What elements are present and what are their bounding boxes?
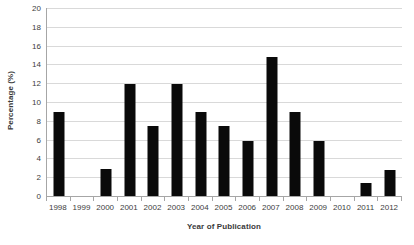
x-tick-label-2000: 2000 (96, 203, 114, 212)
x-tick-label-1998: 1998 (49, 203, 67, 212)
bar-2012 (385, 170, 396, 196)
x-tick-label-2002: 2002 (144, 203, 162, 212)
bar-2009 (314, 141, 325, 196)
x-tick-5 (164, 197, 165, 201)
y-tick-label-0: 0 (37, 192, 41, 201)
x-tick-label-2007: 2007 (262, 203, 280, 212)
x-tick-label-2004: 2004 (191, 203, 209, 212)
y-tick-label-8: 8 (37, 116, 41, 125)
bar-slot-1998 (47, 8, 71, 196)
y-tick-label-12: 12 (32, 79, 41, 88)
y-tick-label-6: 6 (37, 135, 41, 144)
y-tick-label-20: 20 (32, 4, 41, 13)
x-tick-4 (141, 197, 142, 201)
bar-slot-2006 (236, 8, 260, 196)
bar-2007 (266, 57, 277, 196)
x-tick-9 (259, 197, 260, 201)
x-tick-1 (70, 197, 71, 201)
x-tick-8 (235, 197, 236, 201)
plot-area (46, 8, 402, 197)
bar-slot-2001 (118, 8, 142, 196)
y-axis-tick-labels: 02468101214161820 (20, 8, 44, 196)
y-axis-title: Percentage (%) (0, 0, 22, 200)
x-tick-15 (401, 197, 402, 201)
bar-slot-2011 (355, 8, 379, 196)
bar-slot-2002 (142, 8, 166, 196)
bar-2002 (148, 126, 159, 196)
x-tick-label-2011: 2011 (357, 203, 374, 212)
y-tick-label-4: 4 (37, 154, 41, 163)
x-tick-0 (46, 197, 47, 201)
bar-2011 (361, 183, 372, 196)
y-axis-title-label: Percentage (%) (7, 70, 16, 129)
x-tick-3 (117, 197, 118, 201)
x-tick-11 (306, 197, 307, 201)
bar-slot-1999 (71, 8, 95, 196)
x-axis-tick-labels: 1998199920002001200220032004200520062007… (46, 203, 402, 217)
x-tick-label-2003: 2003 (167, 203, 185, 212)
x-tick-6 (188, 197, 189, 201)
x-tick-label-2001: 2001 (120, 203, 138, 212)
x-tick-13 (354, 197, 355, 201)
x-tick-label-2006: 2006 (238, 203, 256, 212)
x-tick-label-2005: 2005 (215, 203, 233, 212)
bar-slot-2007 (260, 8, 284, 196)
y-tick-label-14: 14 (32, 60, 41, 69)
bar-2003 (172, 84, 183, 196)
x-tick-label-2008: 2008 (286, 203, 304, 212)
bar-slot-2003 (165, 8, 189, 196)
bar-slot-2012 (378, 8, 402, 196)
bar-slot-2004 (189, 8, 213, 196)
y-tick-label-10: 10 (32, 98, 41, 107)
x-axis-title: Year of Publication (46, 222, 402, 231)
bar-2004 (195, 112, 206, 196)
bar-slot-2010 (331, 8, 355, 196)
bars-group (47, 8, 402, 196)
bar-2006 (243, 141, 254, 196)
x-tick-14 (377, 197, 378, 201)
bar-1998 (53, 112, 64, 196)
x-tick-12 (330, 197, 331, 201)
x-tick-7 (212, 197, 213, 201)
bar-chart: Percentage (%) 02468101214161820 1998199… (0, 0, 414, 245)
x-tick-label-2010: 2010 (333, 203, 351, 212)
bar-slot-2008 (284, 8, 308, 196)
x-tick-2 (93, 197, 94, 201)
bar-2001 (124, 84, 135, 196)
x-tick-label-1999: 1999 (73, 203, 91, 212)
y-tick-label-2: 2 (37, 173, 41, 182)
bar-2000 (101, 169, 112, 196)
y-tick-label-18: 18 (32, 22, 41, 31)
bar-slot-2000 (94, 8, 118, 196)
x-tick-label-2012: 2012 (380, 203, 398, 212)
bar-2005 (219, 126, 230, 196)
x-axis-ticks (46, 197, 402, 202)
x-tick-label-2009: 2009 (309, 203, 327, 212)
y-tick-label-16: 16 (32, 41, 41, 50)
bar-slot-2005 (213, 8, 237, 196)
x-tick-10 (283, 197, 284, 201)
bar-slot-2009 (307, 8, 331, 196)
bar-2008 (290, 112, 301, 196)
